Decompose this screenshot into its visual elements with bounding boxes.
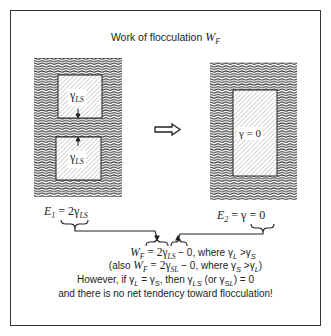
transition-arrow-icon	[155, 124, 180, 135]
left-bottom-particle-label: γLS	[68, 151, 86, 168]
right-particle-label: γ = 0	[237, 127, 263, 140]
left-top-particle-label: γLS	[68, 89, 86, 106]
left-energy-label: E1 = 2γLS	[44, 204, 88, 220]
equation-line-4: and there is no net tendency toward floc…	[0, 287, 331, 300]
right-energy-label: E2 = γ = 0	[217, 208, 265, 224]
